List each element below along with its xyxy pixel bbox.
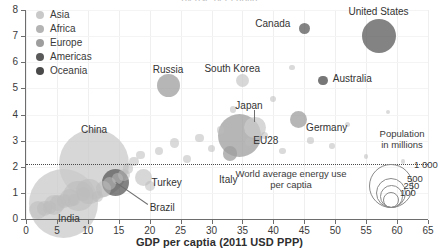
country-label-china: China bbox=[81, 125, 107, 135]
data-bubble bbox=[289, 65, 295, 71]
y-tick-label: 6 bbox=[2, 57, 18, 67]
country-label-russia: Russia bbox=[153, 65, 184, 75]
y-axis-line bbox=[25, 10, 26, 220]
population-legend-circle bbox=[383, 192, 399, 208]
legend-swatch-africa bbox=[36, 25, 44, 33]
y-tick bbox=[21, 62, 25, 63]
label-leader-line bbox=[254, 110, 255, 122]
legend-item-africa[interactable]: Africa bbox=[36, 22, 110, 36]
x-tick bbox=[150, 220, 151, 224]
country-label-italy: Italy bbox=[219, 175, 237, 185]
x-tick-label: 40 bbox=[261, 226, 285, 236]
legend-label: Oceania bbox=[50, 66, 87, 76]
data-bubble-russia bbox=[157, 74, 180, 97]
legend-swatch-americas bbox=[36, 53, 44, 61]
data-bubble-united-states bbox=[362, 19, 396, 53]
y-tick-label: 7 bbox=[2, 31, 18, 41]
x-tick bbox=[335, 220, 336, 224]
country-label-japan: Japan bbox=[235, 101, 262, 111]
data-bubble bbox=[208, 145, 216, 153]
x-tick-label: 5 bbox=[45, 226, 69, 236]
legend-item-oceania[interactable]: Oceania bbox=[36, 64, 110, 78]
data-bubble bbox=[136, 151, 145, 160]
data-bubble-australia bbox=[318, 76, 327, 85]
population-legend-value: 1 000 bbox=[414, 160, 439, 170]
data-bubble bbox=[279, 148, 286, 155]
x-tick-label: 25 bbox=[169, 226, 193, 236]
y-tick-label: 8 bbox=[2, 5, 18, 15]
data-bubble bbox=[43, 201, 56, 214]
country-label-australia: Australia bbox=[333, 74, 372, 84]
x-axis-title: GDP per captia (2011 USD PPP) bbox=[0, 236, 439, 248]
country-label-canada: Canada bbox=[255, 19, 290, 29]
y-tick bbox=[21, 10, 25, 11]
x-tick bbox=[119, 220, 120, 224]
data-bubble bbox=[195, 134, 204, 143]
country-label-india: India bbox=[58, 214, 80, 224]
data-bubble bbox=[329, 143, 334, 148]
y-tick bbox=[21, 88, 25, 89]
legend-swatch-asia bbox=[36, 11, 44, 19]
chart-root: gy use per captia 0510152025303540455055… bbox=[0, 0, 439, 249]
legend-label: Africa bbox=[50, 24, 76, 34]
y-tick bbox=[21, 167, 25, 168]
y-tick-label: 5 bbox=[2, 83, 18, 93]
country-label-turkey: Turkey bbox=[152, 178, 182, 188]
x-tick bbox=[273, 220, 274, 224]
legend-label: Asia bbox=[50, 10, 69, 20]
world-average-annotation: World average energy use per captia bbox=[216, 168, 366, 190]
x-tick bbox=[366, 220, 367, 224]
data-bubble-italy bbox=[223, 146, 238, 161]
x-tick bbox=[397, 220, 398, 224]
legend-label: Americas bbox=[50, 52, 92, 62]
x-tick bbox=[26, 220, 27, 224]
country-label-eu28: EU28 bbox=[253, 136, 278, 146]
x-tick bbox=[181, 220, 182, 224]
x-tick-label: 10 bbox=[76, 226, 100, 236]
population-size-legend: Population in millions 1 000500250100 bbox=[366, 128, 438, 210]
x-tick bbox=[428, 220, 429, 224]
clipped-top-title: gy use per captia bbox=[0, 0, 439, 1]
legend-item-americas[interactable]: Americas bbox=[36, 50, 110, 64]
x-tick-label: 35 bbox=[230, 226, 254, 236]
data-bubble bbox=[386, 110, 390, 114]
country-label-united-states: United States bbox=[349, 7, 409, 17]
data-bubble bbox=[270, 96, 276, 102]
x-tick-label: 0 bbox=[14, 226, 38, 236]
y-tick bbox=[21, 36, 25, 37]
population-legend-title-line1: Population bbox=[380, 128, 425, 139]
population-legend-title: Population in millions bbox=[366, 128, 438, 150]
x-axis-line bbox=[25, 219, 428, 220]
country-label-germany: Germany bbox=[306, 123, 347, 133]
x-tick bbox=[242, 220, 243, 224]
data-bubble bbox=[92, 191, 103, 202]
x-tick-label: 50 bbox=[323, 226, 347, 236]
y-tick-label: 2 bbox=[2, 162, 18, 172]
x-tick bbox=[304, 220, 305, 224]
legend-item-asia[interactable]: Asia bbox=[36, 8, 110, 22]
x-tick-label: 30 bbox=[200, 226, 224, 236]
country-label-south-korea: South Korea bbox=[204, 64, 260, 74]
country-label-brazil: Brazil bbox=[150, 203, 175, 213]
continent-legend: AsiaAfricaEuropeAmericasOceania bbox=[36, 8, 110, 78]
x-tick-label: 20 bbox=[138, 226, 162, 236]
data-bubble bbox=[307, 137, 313, 143]
data-bubble bbox=[183, 155, 191, 163]
y-tick bbox=[21, 219, 25, 220]
y-gridline bbox=[26, 115, 428, 116]
data-bubble bbox=[245, 138, 253, 146]
y-tick bbox=[21, 115, 25, 116]
legend-swatch-oceania bbox=[36, 67, 44, 75]
world-average-line2: per captia bbox=[270, 179, 312, 190]
legend-item-europe[interactable]: Europe bbox=[36, 36, 110, 50]
x-tick-label: 55 bbox=[354, 226, 378, 236]
world-average-line1: World average energy use bbox=[235, 168, 346, 179]
population-legend-value: 100 bbox=[400, 188, 434, 198]
data-bubble-canada bbox=[299, 23, 310, 34]
x-tick-label: 65 bbox=[416, 226, 439, 236]
x-tick-label: 60 bbox=[385, 226, 409, 236]
legend-label: Europe bbox=[50, 38, 82, 48]
y-tick bbox=[21, 193, 25, 194]
y-tick bbox=[21, 141, 25, 142]
data-bubble bbox=[170, 138, 180, 148]
